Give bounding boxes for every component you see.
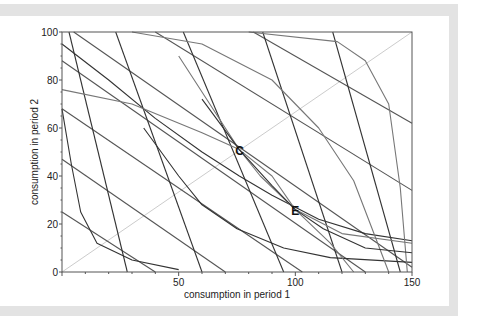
steep-line-4: [263, 32, 342, 272]
steep-line-3: [183, 32, 283, 272]
x-tick-label: 100: [287, 277, 304, 288]
budget-line-7: [253, 32, 412, 123]
indifference-curve-2: [62, 44, 412, 241]
y-tick-label: 80: [47, 75, 59, 86]
x-tick-label: 50: [173, 277, 185, 288]
y-tick-label: 20: [47, 219, 59, 230]
indifference-curve-3: [144, 128, 412, 262]
x-axis-label: consumption in period 1: [184, 289, 291, 300]
y-tick-label: 60: [47, 123, 59, 134]
point-label-c: C: [235, 144, 244, 158]
steep-line-2: [116, 32, 202, 272]
indifference-curve-4: [62, 90, 354, 272]
axis-ticks: 50100150020406080100: [41, 27, 420, 288]
y-tick-label: 0: [52, 267, 58, 278]
point-label-e: E: [291, 204, 299, 218]
y-tick-label: 40: [47, 171, 59, 182]
y-axis-label: consumption in period 2: [29, 98, 40, 205]
chart: 50100150020406080100 CE consumption in p…: [0, 0, 479, 330]
y-tick-label: 100: [41, 27, 58, 38]
x-tick-label: 150: [404, 277, 421, 288]
steep-line-1: [69, 32, 127, 272]
indifference-curve-8: [202, 99, 412, 253]
